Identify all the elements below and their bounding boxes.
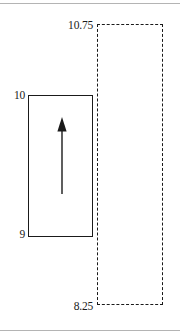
dashed-rectangle [97, 24, 163, 305]
page-rule-bottom [0, 330, 180, 331]
dimension-label-bottom: 8.25 [34, 300, 93, 312]
figure-canvas: 10.75 10 9 8.25 [0, 0, 180, 335]
up-arrow-icon [52, 116, 72, 196]
dimension-label-upper-left: 10 [0, 89, 25, 101]
dimension-label-top: 10.75 [30, 19, 93, 31]
dimension-label-lower-left: 9 [0, 228, 25, 240]
page-rule-top [0, 3, 180, 4]
